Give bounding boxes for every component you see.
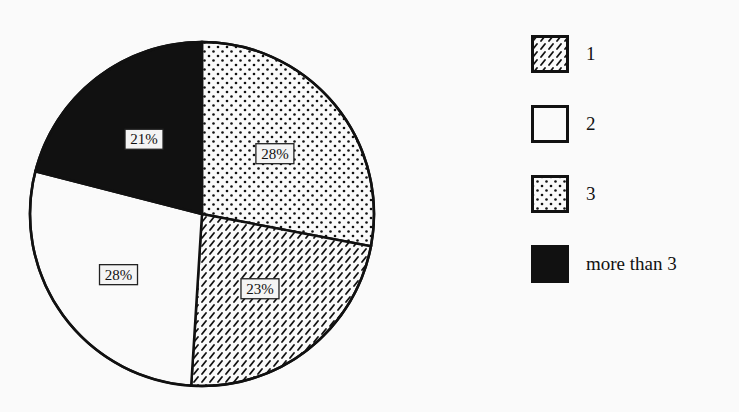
svg-text:28%: 28%: [261, 146, 289, 162]
svg-text:23%: 23%: [246, 281, 274, 297]
svg-text:28%: 28%: [105, 267, 133, 283]
value-label: 28%: [256, 144, 294, 164]
legend-label: 3: [586, 183, 596, 205]
legend-label: 2: [586, 113, 596, 135]
legend-label: 1: [586, 43, 596, 65]
pie-slices: [30, 42, 374, 386]
legend-item-3: 3: [531, 175, 596, 213]
legend-label: more than 3: [586, 253, 677, 275]
dots-swatch-icon: [531, 175, 569, 213]
value-label: 23%: [241, 279, 279, 299]
value-label: 21%: [125, 129, 163, 149]
legend-item-more-than-3: more than 3: [531, 245, 677, 283]
hatch-swatch-icon: [531, 35, 569, 73]
value-label: 28%: [100, 265, 138, 285]
svg-text:21%: 21%: [130, 131, 158, 147]
black-swatch-icon: [531, 245, 569, 283]
white-swatch-icon: [531, 105, 569, 143]
legend-item-2: 2: [531, 105, 596, 143]
legend-item-1: 1: [531, 35, 596, 73]
pie-chart: 28%23%28%21%: [0, 0, 739, 412]
